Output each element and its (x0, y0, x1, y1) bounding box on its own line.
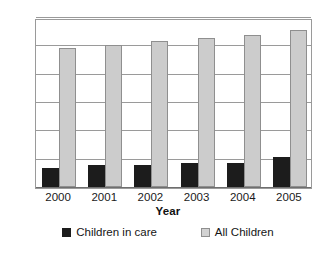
bar-group (128, 41, 174, 187)
legend-item-children-in-care: Children in care (62, 227, 157, 239)
bar-children-in-care (42, 168, 59, 187)
bar-all-children (151, 41, 168, 187)
legend-item-all-children: All Children (201, 227, 274, 239)
x-axis-line (36, 187, 311, 188)
legend-label-all-children: All Children (215, 227, 274, 239)
x-axis-tick-label: 2001 (91, 192, 117, 204)
bar-all-children (290, 30, 307, 187)
x-axis-tick-label: 2003 (184, 192, 210, 204)
bar-group (36, 48, 82, 187)
bar-group (267, 30, 313, 187)
bar-all-children (105, 45, 122, 187)
bar-children-in-care (88, 165, 105, 187)
bar-group (175, 38, 221, 187)
dark-square-swatch-icon (62, 228, 71, 237)
bar-children-in-care (273, 157, 290, 187)
chart-legend: Children in care All Children (0, 227, 336, 239)
legend-label-children-in-care: Children in care (76, 227, 157, 239)
x-axis-tick-label: 2005 (276, 192, 302, 204)
bar-group (221, 35, 267, 187)
x-axis-title: Year (0, 205, 336, 217)
bar-children-in-care (134, 165, 151, 187)
bar-all-children (244, 35, 261, 187)
bar-children-in-care (181, 163, 198, 187)
x-axis-tick-label: 2004 (230, 192, 256, 204)
bar-all-children (198, 38, 215, 187)
bar-group (82, 45, 128, 187)
plot-area (35, 19, 312, 189)
bar-children-in-care (227, 163, 244, 187)
x-axis-tick-label: 2000 (45, 192, 71, 204)
light-square-swatch-icon (201, 228, 210, 237)
bar-chart: 0102030405060 200020012002200320042005 Y… (0, 0, 336, 253)
bar-all-children (59, 48, 76, 187)
gridline (36, 17, 311, 18)
x-axis-tick-label: 2002 (138, 192, 164, 204)
